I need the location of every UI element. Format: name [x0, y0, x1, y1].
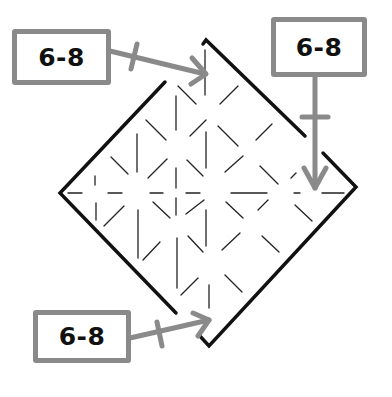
callout-box-bottom-left: 6-8 — [33, 310, 131, 363]
crease-lines — [68, 50, 344, 308]
paper-outline — [60, 40, 356, 346]
arrow-bottom-left — [130, 313, 209, 346]
arrow-top-right — [302, 76, 328, 188]
callout-box-top-right: 6-8 — [271, 17, 367, 77]
step-reference-label: 6-8 — [38, 43, 85, 72]
callout-box-top-left: 6-8 — [12, 29, 111, 85]
step-reference-label: 6-8 — [296, 33, 343, 62]
arrow-top-left — [110, 44, 206, 84]
step-reference-label: 6-8 — [59, 322, 106, 351]
